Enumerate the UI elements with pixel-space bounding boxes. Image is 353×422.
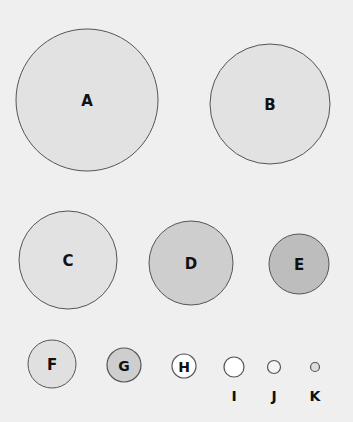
circle-g: G [107, 348, 141, 382]
circle-label: J [270, 388, 276, 404]
circle-label: K [310, 388, 322, 404]
circle-a: A [16, 29, 158, 171]
circle-label: D [185, 255, 197, 273]
circle-size-diagram: ABCDEFGHIJK [0, 0, 353, 422]
circle-label: C [62, 252, 73, 270]
circle-label: A [81, 92, 93, 110]
circle-e: E [269, 234, 329, 294]
circle-label: G [118, 358, 130, 374]
circle-c: C [19, 211, 117, 309]
circle-shape [268, 361, 281, 374]
circle-j: J [268, 361, 281, 405]
circle-b: B [210, 44, 330, 164]
circle-label: I [231, 388, 236, 404]
circle-label: F [47, 356, 57, 374]
circle-label: E [294, 256, 304, 274]
circle-shape [224, 357, 244, 377]
circle-i: I [224, 357, 244, 404]
circle-h: H [172, 354, 196, 378]
circle-k: K [310, 363, 322, 405]
circle-f: F [28, 340, 76, 388]
circle-d: D [149, 221, 233, 305]
circle-label: H [178, 359, 190, 375]
circle-shape [311, 363, 320, 372]
circle-label: B [264, 96, 275, 114]
